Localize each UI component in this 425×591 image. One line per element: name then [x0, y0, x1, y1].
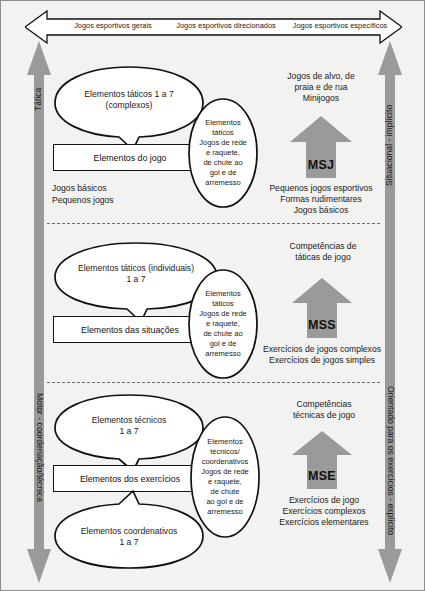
msj-bottom-text: Pequenos jogos esportivos Formas rudimen… [255, 183, 387, 217]
note-jogos-basicos: Jogos básicos Pequenos jogos [52, 183, 114, 206]
ellipse-elementos-taticos-jogos: Elementos táticos Jogos de rede e raquet… [187, 97, 259, 209]
mss-code-label: MSS [292, 318, 352, 332]
ellipse-elementos-tecnicos-coordenativos: Elementos técnicos/ coordenativos Jogos … [189, 415, 261, 539]
section-divider-2 [47, 382, 380, 383]
mss-bottom-text: Exercícios de jogos complexos Exercícios… [252, 344, 392, 366]
callout-label: Elementos coordenativos 1 a 7 [53, 526, 205, 548]
ellipse-label: Elementos táticos Jogos de rede e raquet… [187, 268, 259, 380]
banner-label-geral: Jogos esportivos gerais [53, 21, 173, 30]
msj-top-text: Jogos de alvo, de praia e de rua Minijog… [263, 71, 379, 105]
ellipse-label: Elementos táticos Jogos de rede e raquet… [187, 97, 259, 209]
msj-block-arrow: MSJ [290, 116, 352, 178]
left-down-arrow-label: Motor - coordenação/técnica [35, 393, 45, 502]
section-divider-1 [47, 223, 380, 224]
callout-elementos-tecnicos: Elementos técnicos 1 a 7 [53, 393, 205, 473]
mse-block-arrow: MSE [292, 431, 352, 489]
top-progression-banner: Jogos esportivos gerais Jogos esportivos… [25, 9, 402, 45]
ellipse-elementos-taticos-jogos-2: Elementos táticos Jogos de rede e raquet… [187, 268, 259, 380]
banner-label-especifico: Jogos esportivos específicos [279, 21, 401, 30]
callout-label: Elementos táticos 1 a 7 (complexos) [53, 89, 205, 111]
rect-elementos-do-jogo: Elementos do jogo [53, 144, 207, 171]
right-up-arrow-label: Situacional - implícito [384, 105, 394, 186]
mse-code-label: MSE [292, 469, 352, 483]
callout-label: Elementos técnicos 1 a 7 [53, 415, 205, 437]
msj-code-label: MSJ [290, 158, 352, 172]
banner-label-direcionado: Jogos esportivos direcionados [156, 21, 296, 30]
callout-elementos-taticos-complexos: Elementos táticos 1 a 7 (complexos) [53, 65, 205, 153]
diagram-canvas: Jogos esportivos gerais Jogos esportivos… [0, 0, 425, 591]
mss-block-arrow: MSS [292, 278, 352, 338]
mss-top-text: Competências de táticas de jogo [265, 241, 381, 263]
rect-elementos-das-situacoes: Elementos das situações [53, 316, 207, 343]
left-up-arrow-label: Tática [33, 88, 43, 111]
mse-top-text: Competências técnicas de jogo [269, 399, 379, 421]
callout-elementos-coordenativos: Elementos coordenativos 1 a 7 [53, 488, 205, 570]
ellipse-label: Elementos técnicos/ coordenativos Jogos … [189, 415, 261, 539]
right-down-arrow-label: Orientado para os exercícios - explícito [386, 386, 396, 535]
mse-bottom-text: Exercícios de jogo Exercícios complexos … [263, 495, 385, 529]
